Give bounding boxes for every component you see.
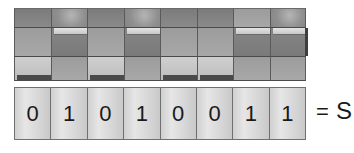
result-character: S bbox=[336, 97, 352, 125]
bit-cell-2: 0 bbox=[88, 88, 124, 139]
key-shadow bbox=[163, 75, 200, 80]
switch-top-segment bbox=[197, 8, 234, 28]
switch-0-off bbox=[14, 8, 51, 81]
binary-digit-row: 0 1 0 1 0 0 1 1 bbox=[14, 87, 306, 140]
switch-top-segment bbox=[51, 8, 88, 28]
switch-4-off bbox=[160, 8, 197, 81]
switch-2-off bbox=[87, 8, 124, 81]
switch-top-segment bbox=[87, 8, 124, 28]
bit-cell-3: 1 bbox=[124, 88, 160, 139]
switch-top-segment bbox=[14, 8, 51, 28]
switch-top-segment bbox=[160, 8, 197, 28]
switch-1-on bbox=[51, 8, 88, 81]
switch-middle-segment bbox=[160, 28, 197, 57]
switch-middle-segment bbox=[87, 28, 124, 57]
switch-lower-segment bbox=[160, 57, 197, 81]
switch-6-on bbox=[233, 8, 270, 81]
switch-lower-segment bbox=[270, 57, 307, 81]
switch-bank bbox=[14, 8, 306, 81]
equals-sign: = bbox=[316, 99, 329, 125]
key-bevel bbox=[127, 28, 161, 35]
key-bevel bbox=[54, 28, 88, 35]
switch-lower-segment bbox=[233, 57, 270, 81]
bit-cell-7: 1 bbox=[270, 88, 305, 139]
switch-lower-segment bbox=[51, 57, 88, 81]
switch-lower-segment bbox=[87, 57, 124, 81]
key-shadow bbox=[305, 28, 308, 56]
bit-cell-6: 1 bbox=[233, 88, 269, 139]
switch-3-on bbox=[124, 8, 161, 81]
key-bevel bbox=[273, 28, 306, 35]
key-shadow bbox=[90, 75, 127, 80]
switch-7-on bbox=[270, 8, 307, 81]
switch-middle-segment bbox=[197, 28, 234, 57]
switch-5-off bbox=[197, 8, 234, 81]
bit-cell-1: 1 bbox=[51, 88, 87, 139]
switch-middle-segment bbox=[14, 28, 51, 57]
switch-middle-segment bbox=[270, 28, 307, 57]
switch-lower-segment bbox=[14, 57, 51, 81]
switch-top-segment bbox=[270, 8, 307, 28]
switch-middle-segment bbox=[124, 28, 161, 57]
switch-lower-segment bbox=[124, 57, 161, 81]
key-shadow bbox=[17, 75, 54, 80]
bit-cell-5: 0 bbox=[197, 88, 233, 139]
switch-top-segment bbox=[233, 8, 270, 28]
bit-cell-4: 0 bbox=[161, 88, 197, 139]
switch-top-segment bbox=[124, 8, 161, 28]
key-shadow bbox=[200, 75, 237, 80]
key-bevel bbox=[236, 28, 270, 35]
switch-lower-segment bbox=[197, 57, 234, 81]
switch-middle-segment bbox=[233, 28, 270, 57]
bit-cell-0: 0 bbox=[15, 88, 51, 139]
switch-middle-segment bbox=[51, 28, 88, 57]
